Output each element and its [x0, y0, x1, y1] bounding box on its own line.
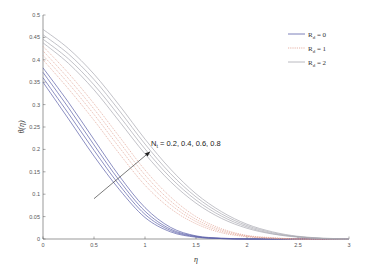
y-tick-label: 0.4 — [32, 57, 40, 63]
y-axis-label: θ(η) — [17, 120, 26, 134]
legend-label: Rd = 2 — [308, 59, 327, 68]
x-tick-label: 0 — [41, 242, 44, 248]
y-tick-label: 0.25 — [29, 124, 40, 130]
curve-Rd2 — [43, 29, 349, 239]
curve-Rd0 — [43, 78, 349, 239]
x-axis-label: η — [194, 255, 198, 264]
x-tick-label: 1 — [143, 242, 146, 248]
chart: 00.511.522.5300.050.10.150.20.250.30.350… — [0, 0, 369, 268]
y-tick-label: 0 — [37, 236, 40, 242]
annotation: Nt = 0.2, 0.4, 0.6, 0.8 — [94, 139, 221, 198]
y-tick-label: 0.2 — [32, 146, 40, 152]
y-tick-label: 0.3 — [32, 102, 40, 108]
legend: Rd = 0Rd = 1Rd = 2 — [288, 31, 327, 68]
y-tick-label: 0.15 — [29, 169, 40, 175]
y-tick-label: 0.05 — [29, 214, 40, 220]
arrow-line — [94, 152, 150, 199]
curve-Rd0 — [43, 82, 349, 239]
annotation-text: Nt = 0.2, 0.4, 0.6, 0.8 — [151, 139, 221, 149]
y-tick-label: 0.5 — [32, 12, 40, 18]
curve-Rd2 — [43, 35, 349, 239]
legend-label: Rd = 1 — [308, 45, 327, 54]
x-tick-label: 0.5 — [90, 242, 98, 248]
x-tick-label: 2.5 — [294, 242, 302, 248]
y-tick-label: 0.35 — [29, 79, 40, 85]
x-tick-label: 3 — [347, 242, 350, 248]
x-tick-label: 1.5 — [192, 242, 200, 248]
y-tick-label: 0.45 — [29, 34, 40, 40]
data-curves — [43, 29, 349, 239]
legend-label: Rd = 0 — [308, 31, 327, 40]
y-tick-label: 0.1 — [32, 191, 40, 197]
curve-Rd0 — [43, 68, 349, 239]
x-tick-label: 2 — [245, 242, 248, 248]
